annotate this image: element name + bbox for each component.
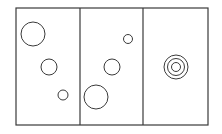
circle-shape	[58, 90, 68, 100]
circle-shape	[41, 59, 57, 75]
three-panel-circle-diagram	[0, 0, 222, 134]
panels	[21, 22, 188, 109]
circle-shape	[84, 85, 108, 109]
circle-shape	[104, 59, 120, 75]
panel-1	[21, 22, 68, 100]
circle-shape	[124, 35, 133, 44]
circle-shape	[172, 63, 181, 72]
circle-shape	[168, 59, 185, 76]
circle-shape	[21, 22, 45, 46]
panel-3	[164, 55, 188, 79]
diagram-frame	[16, 8, 208, 125]
panel-2	[84, 35, 133, 110]
